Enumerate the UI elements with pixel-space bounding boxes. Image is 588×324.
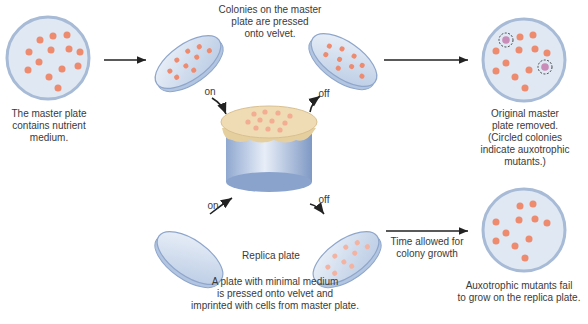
label-off-bottom: off — [314, 194, 334, 206]
label-on-bottom: on — [203, 200, 223, 212]
label-removed: Original master plate removed. (Circled … — [470, 108, 580, 168]
label-minimal-medium: A plate with minimal medium is pressed o… — [170, 276, 380, 312]
label-pressed: Colonies on the master plate are pressed… — [200, 4, 340, 40]
original-master-plate — [483, 19, 565, 101]
velvet-jar — [221, 106, 317, 192]
label-time-allowed: Time allowed for colony growth — [382, 236, 472, 260]
label-mutants-fail: Auxotrophic mutants fail to grow on the … — [450, 280, 588, 304]
label-off-top: off — [314, 88, 334, 100]
label-master-plate: The master plate contains nutrient mediu… — [0, 108, 98, 144]
label-replica-plate: Replica plate — [226, 250, 316, 262]
arrow-on-top — [212, 98, 226, 114]
master-plate — [7, 17, 89, 99]
label-on-top: on — [200, 86, 220, 98]
replica-plate-grown — [483, 189, 565, 271]
